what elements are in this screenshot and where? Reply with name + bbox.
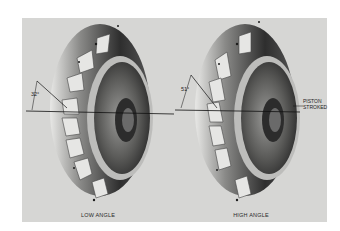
caption-low-angle: LOW ANGLE xyxy=(22,212,174,218)
high-angle-wheel-photo xyxy=(175,18,327,222)
angle-label: 51° xyxy=(181,86,189,92)
caption-high-angle: HIGH ANGLE xyxy=(175,212,327,218)
high-angle-figure: 51° PISTON STROKED HIGH ANGLE xyxy=(175,18,327,222)
photo-panel: 32° LOW ANGLE xyxy=(22,18,327,222)
angle-label: 32° xyxy=(31,91,39,97)
callout-line-2: STROKED xyxy=(303,104,327,110)
low-angle-figure: 32° LOW ANGLE xyxy=(22,18,174,222)
piston-stroked-callout: PISTON STROKED xyxy=(303,98,327,110)
low-angle-wheel-photo xyxy=(22,18,174,222)
